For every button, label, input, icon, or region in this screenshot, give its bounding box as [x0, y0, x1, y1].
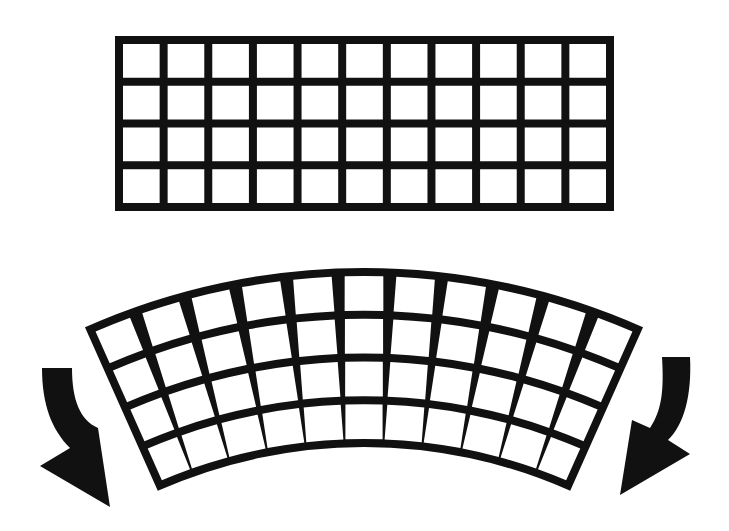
curved-grid: [85, 268, 643, 491]
flat-grid-cell: [123, 169, 160, 203]
flat-grid-cell: [168, 44, 205, 78]
flat-grid-cell: [257, 86, 294, 120]
flat-grid-cell: [435, 86, 472, 120]
flat-grid-cell: [569, 169, 606, 203]
right-bend-arrow-icon: [620, 357, 690, 495]
flat-grid-cell: [212, 169, 249, 203]
flat-grid-cell: [302, 128, 339, 162]
curved-grid-cell: [391, 319, 432, 357]
flat-grid-cell: [525, 44, 562, 78]
curved-grid-cell: [256, 366, 299, 406]
flat-grid-cell: [435, 169, 472, 203]
curved-grid-cell: [442, 281, 486, 321]
flat-grid-cell: [391, 128, 428, 162]
curved-grid-cell: [345, 319, 383, 354]
flat-grid-cell: [168, 169, 205, 203]
curved-grid-cell: [300, 362, 340, 400]
flat-grid-cell: [480, 44, 517, 78]
curved-grid-cell: [345, 361, 383, 396]
flat-grid-cell: [391, 169, 428, 203]
flat-grid-cell: [168, 86, 205, 120]
curved-grid-cell: [388, 362, 428, 400]
flat-grid-cell: [257, 128, 294, 162]
curved-grid-cell: [430, 366, 473, 406]
flat-grid-cell: [569, 128, 606, 162]
curved-grid-cell: [242, 281, 286, 321]
flat-grid-cell: [346, 44, 383, 78]
flat-grid-cell: [435, 44, 472, 78]
flat-grid-cell: [168, 128, 205, 162]
flat-grid-cell: [212, 128, 249, 162]
flat-grid-cell: [302, 86, 339, 120]
flat-grid-cell: [480, 169, 517, 203]
curved-grid-cell: [262, 408, 304, 448]
flat-grid-cell: [435, 128, 472, 162]
curved-grid-cell: [293, 277, 334, 315]
curved-grid-cell: [345, 404, 382, 439]
bending-grid-diagram: [0, 0, 729, 531]
flat-grid-cell: [569, 86, 606, 120]
flat-grid-cell: [480, 86, 517, 120]
flat-grid-cell: [302, 44, 339, 78]
flat-grid-cell: [391, 44, 428, 78]
flat-grid-cell: [525, 128, 562, 162]
flat-grid-cell: [123, 86, 160, 120]
flat-grid-cell: [123, 44, 160, 78]
flat-grid-cell: [257, 169, 294, 203]
curved-grid-cell: [304, 405, 344, 442]
curved-grid-cell: [345, 276, 384, 311]
flat-grid-cell: [525, 86, 562, 120]
flat-grid-cell: [302, 169, 339, 203]
left-bend-arrow-icon: [40, 368, 110, 507]
flat-grid-cell: [391, 86, 428, 120]
flat-grid-cell: [212, 86, 249, 120]
curved-grid-cell: [249, 323, 292, 363]
curved-grid-cell: [436, 323, 479, 363]
flat-grid-cell: [480, 128, 517, 162]
flat-grid-cell: [569, 44, 606, 78]
curved-grid-cell: [424, 408, 466, 448]
curved-grid-cell: [394, 277, 435, 315]
curved-grid-cell: [385, 405, 425, 442]
flat-grid-cell: [525, 169, 562, 203]
flat-grid-cell: [346, 169, 383, 203]
flat-grid: [115, 36, 614, 211]
curved-grid-cell: [297, 319, 338, 357]
flat-grid-cell: [346, 128, 383, 162]
flat-grid-cell: [123, 128, 160, 162]
flat-grid-cell: [346, 86, 383, 120]
flat-grid-cell: [257, 44, 294, 78]
flat-grid-cell: [212, 44, 249, 78]
